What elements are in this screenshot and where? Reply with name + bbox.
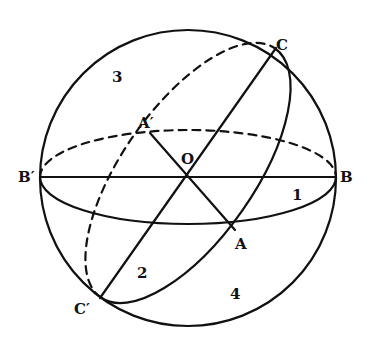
- label-point-b: B: [340, 170, 353, 185]
- segment-AA: [150, 133, 235, 230]
- label-region-3: 3: [112, 70, 122, 85]
- label-point-a: A: [235, 237, 247, 252]
- label-point-o: O: [181, 152, 194, 167]
- label-region-1: 1: [292, 188, 302, 203]
- label-point-a-prime: A′: [138, 116, 154, 131]
- diameter-CC: [100, 48, 276, 298]
- label-region-4: 4: [230, 287, 240, 302]
- label-point-c-prime: C′: [74, 302, 90, 317]
- label-point-c: C: [276, 38, 288, 53]
- sphere-diagram: C 3 A′ O B′ B 1 A 2 4 C′: [0, 0, 373, 353]
- great-circle-back-arc: [47, 11, 275, 298]
- sphere-figure: [0, 0, 373, 353]
- label-point-b-prime: B′: [18, 170, 35, 185]
- label-region-2: 2: [137, 266, 147, 281]
